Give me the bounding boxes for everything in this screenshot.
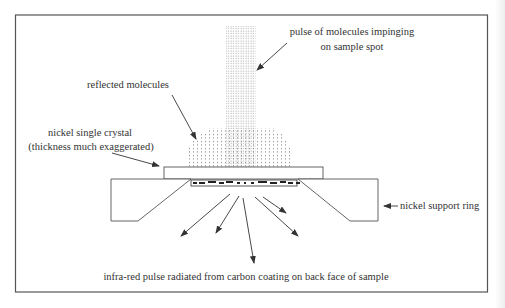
reflected-leader-arrow	[172, 95, 196, 139]
diagram-canvas: pulse of molecules impinging on sample s…	[0, 0, 505, 308]
support-ring-label: nickel support ring	[400, 200, 480, 211]
pulse-leader-arrow	[257, 43, 287, 70]
infrared-label: infra-red pulse radiated from carbon coa…	[103, 271, 388, 282]
pulse-label-line2: on sample spot	[321, 41, 384, 52]
carbon-coating	[191, 180, 300, 186]
crystal-label-line1: nickel single crystal	[48, 127, 132, 138]
crystal-leader-arrow	[112, 153, 159, 166]
crystal-label-line2: (thickness much exaggerated)	[28, 141, 154, 153]
molecule-pulse-column	[226, 26, 256, 167]
pulse-label-line1: pulse of molecules impinging	[290, 26, 415, 37]
nickel-single-crystal	[164, 167, 323, 179]
infrared-arrows	[181, 194, 298, 263]
reflected-label: reflected molecules	[87, 79, 169, 90]
